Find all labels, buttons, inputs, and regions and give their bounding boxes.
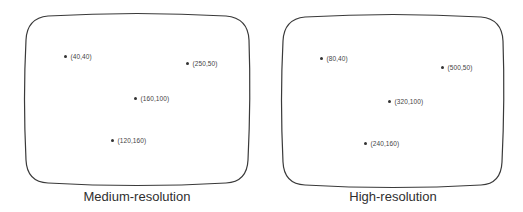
point-dot (364, 142, 367, 145)
point-dot (441, 66, 444, 69)
point-marker: (240,160) (364, 138, 400, 148)
panel-caption: High-resolution (349, 189, 436, 204)
point-label: (240,160) (371, 140, 400, 147)
point-label: (80,40) (327, 55, 348, 62)
point-dot (388, 100, 391, 103)
point-dot (320, 57, 323, 60)
crt-screen-outline (0, 0, 523, 212)
point-marker: (500,50) (441, 62, 473, 72)
point-marker: (320,100) (388, 96, 424, 106)
point-label: (500,50) (448, 64, 473, 71)
point-marker: (80,40) (320, 53, 348, 63)
point-label: (320,100) (395, 98, 424, 105)
high-resolution-panel: (80,40) (500,50) (320,100) (240,160) Hig… (0, 0, 523, 212)
